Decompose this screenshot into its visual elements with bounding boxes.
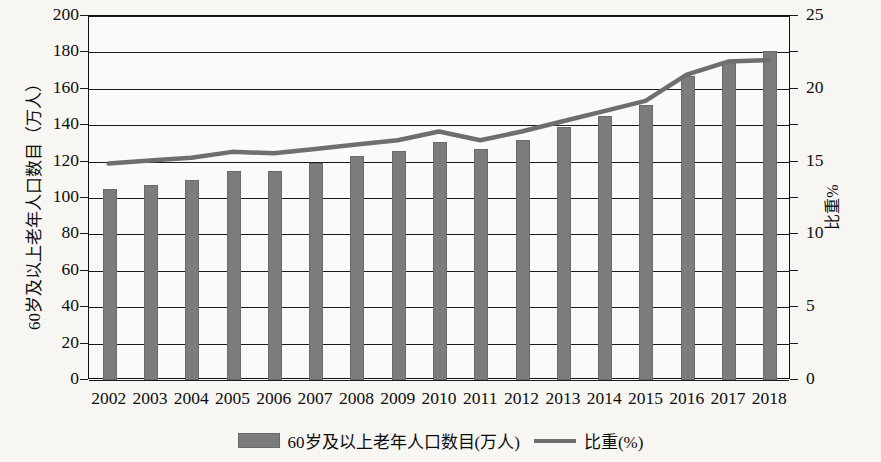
legend-label-ratio: 比重(%) bbox=[584, 428, 643, 453]
y-right-tick-mark bbox=[790, 306, 798, 307]
y-left-tick-label: 0 bbox=[19, 370, 79, 388]
bar-2002 bbox=[103, 189, 117, 380]
y-left-tick-mark bbox=[80, 270, 88, 271]
bar-2011 bbox=[474, 149, 488, 380]
y-left-tick-mark bbox=[80, 161, 88, 162]
y-right-tick-label: 0 bbox=[806, 370, 846, 388]
y-right-tick-mark bbox=[790, 233, 798, 234]
bar-2007 bbox=[309, 163, 323, 380]
y-left-tick-mark bbox=[80, 233, 88, 234]
plot-area bbox=[88, 15, 790, 379]
y-right-tick-label: 10 bbox=[806, 224, 846, 242]
chart-legend: 60岁及以上老年人口数目(万人) 比重(%) bbox=[0, 428, 881, 453]
y-right-tick-label: 5 bbox=[806, 297, 846, 315]
bar-swatch-icon bbox=[238, 433, 280, 448]
bar-2013 bbox=[557, 127, 571, 380]
y-left-tick-label: 160 bbox=[19, 79, 79, 97]
y-right-tick-mark bbox=[790, 51, 798, 52]
bar-2009 bbox=[392, 151, 406, 380]
bar-2015 bbox=[639, 105, 653, 380]
legend-label-population: 60岁及以上老年人口数目(万人) bbox=[288, 428, 520, 453]
y-left-tick-mark bbox=[80, 343, 88, 344]
gridline bbox=[89, 380, 789, 381]
bar-2017 bbox=[722, 62, 736, 381]
y-left-tick-label: 120 bbox=[19, 152, 79, 170]
line-swatch-icon bbox=[534, 439, 576, 443]
y-left-tick-label: 80 bbox=[19, 224, 79, 242]
y-right-tick-label: 25 bbox=[806, 6, 846, 24]
y-right-tick-mark bbox=[790, 379, 798, 380]
bar-2016 bbox=[681, 76, 695, 380]
bar-2010 bbox=[433, 142, 447, 380]
y-left-tick-label: 20 bbox=[19, 334, 79, 352]
y-left-tick-mark bbox=[80, 51, 88, 52]
y-left-tick-mark bbox=[80, 15, 88, 16]
bar-2004 bbox=[185, 180, 199, 380]
bar-2005 bbox=[227, 171, 241, 380]
y-right-tick-mark bbox=[790, 161, 798, 162]
legend-item-population: 60岁及以上老年人口数目(万人) bbox=[238, 428, 520, 453]
gridline bbox=[89, 52, 789, 53]
y-right-tick-mark bbox=[790, 343, 798, 344]
x-tick-label-2018: 2018 bbox=[745, 388, 793, 409]
y-left-tick-mark bbox=[80, 197, 88, 198]
legend-item-ratio: 比重(%) bbox=[534, 428, 643, 453]
bar-2012 bbox=[516, 140, 530, 380]
y-right-tick-mark bbox=[790, 270, 798, 271]
y-left-tick-mark bbox=[80, 124, 88, 125]
y-right-tick-mark bbox=[790, 197, 798, 198]
y-left-tick-label: 180 bbox=[19, 42, 79, 60]
y-left-tick-mark bbox=[80, 379, 88, 380]
y-right-tick-mark bbox=[790, 15, 798, 16]
y-left-tick-label: 40 bbox=[19, 297, 79, 315]
y-right-tick-mark bbox=[790, 124, 798, 125]
y-right-tick-label: 15 bbox=[806, 152, 846, 170]
y-left-tick-mark bbox=[80, 306, 88, 307]
bar-2008 bbox=[350, 156, 364, 380]
bar-2014 bbox=[598, 116, 612, 380]
bar-2018 bbox=[763, 51, 777, 380]
y-left-tick-label: 200 bbox=[19, 6, 79, 24]
gridline bbox=[89, 16, 789, 17]
y-left-tick-label: 60 bbox=[19, 261, 79, 279]
y-right-tick-mark bbox=[790, 88, 798, 89]
bar-2006 bbox=[268, 171, 282, 380]
y-left-tick-label: 100 bbox=[19, 188, 79, 206]
y-left-tick-mark bbox=[80, 88, 88, 89]
y-left-tick-label: 140 bbox=[19, 115, 79, 133]
bar-2003 bbox=[144, 185, 158, 380]
y-right-tick-label: 20 bbox=[806, 79, 846, 97]
chart-figure: 60岁及以上老年人口数目（万人） 比重% 0204060801001201401… bbox=[0, 0, 881, 462]
